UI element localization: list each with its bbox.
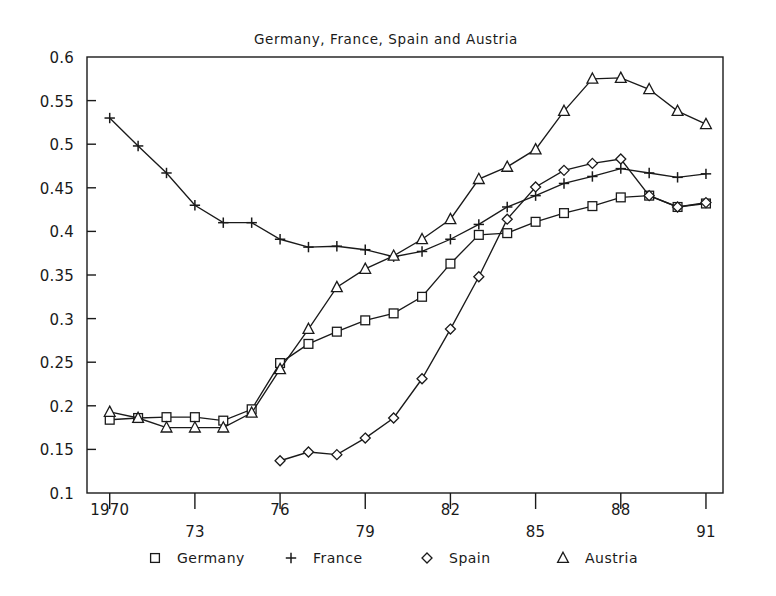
x-tick-label: 85: [526, 523, 546, 541]
x-tick-label: 82: [441, 501, 461, 519]
square-marker: [190, 413, 199, 422]
square-marker: [332, 327, 341, 336]
square-marker: [304, 339, 313, 348]
x-tick-label: 79: [356, 523, 376, 541]
x-tick-label: 88: [611, 501, 631, 519]
legend-label: Germany: [177, 550, 245, 566]
square-marker: [361, 316, 370, 325]
y-tick-label: 0.35: [40, 267, 74, 285]
y-tick-label: 0.5: [50, 136, 74, 154]
x-tick-label: 91: [696, 523, 716, 541]
y-tick-label: 0.3: [50, 311, 74, 329]
square-marker: [531, 217, 540, 226]
line-chart: Germany, France, Spain and Austria 0.10.…: [0, 0, 776, 596]
square-marker: [151, 554, 160, 563]
square-marker: [503, 229, 512, 238]
square-marker: [418, 292, 427, 301]
y-tick-label: 0.1: [50, 485, 74, 503]
y-tick-label: 0.55: [40, 93, 74, 111]
y-tick-label: 0.6: [50, 49, 74, 67]
chart-title: Germany, France, Spain and Austria: [254, 31, 518, 47]
square-marker: [474, 230, 483, 239]
y-tick-label: 0.45: [40, 180, 74, 198]
x-tick-label: 1970: [90, 501, 129, 519]
legend-label: Spain: [449, 550, 491, 566]
y-tick-label: 0.15: [40, 441, 74, 459]
square-marker: [162, 413, 171, 422]
legend-label: Austria: [585, 550, 638, 566]
y-tick-label: 0.2: [50, 398, 74, 416]
square-marker: [560, 209, 569, 218]
chart-page: Germany, France, Spain and Austria 0.10.…: [0, 0, 776, 596]
y-tick-label: 0.4: [50, 223, 74, 241]
y-tick-label: 0.25: [40, 354, 74, 372]
square-marker: [446, 259, 455, 268]
square-marker: [588, 202, 597, 211]
legend-label: France: [313, 550, 363, 566]
square-marker: [389, 309, 398, 318]
x-tick-label: 73: [185, 523, 205, 541]
x-tick-label: 76: [270, 501, 290, 519]
square-marker: [616, 193, 625, 202]
